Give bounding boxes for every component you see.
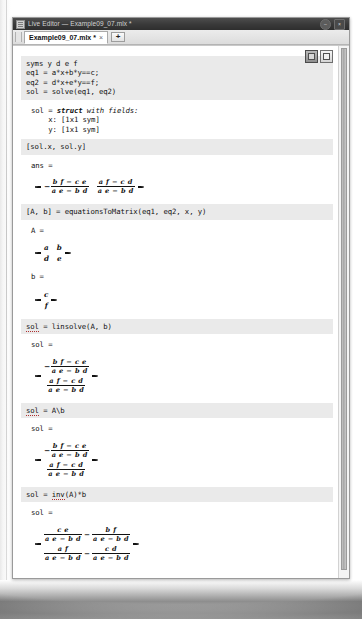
matrix-sol-linsolve: − b f − c e a e − b d a f − c d <box>21 355 333 398</box>
output-A-label: A = <box>21 226 333 236</box>
fraction: a f − c d a e − b d <box>47 377 85 394</box>
matrix-cell: a f a e − b d − c d a e − b d <box>43 544 131 563</box>
matrix-cell: c e a e − b d − b f a e − b d <box>43 525 131 544</box>
output-sol-label-1: sol = <box>21 340 333 350</box>
fraction: c e a e − b d <box>44 526 82 543</box>
tab-example09-07[interactable]: Example09_07.mlx * × <box>24 31 108 44</box>
code-cell-6[interactable]: sol = inv(A)*b <box>21 487 333 502</box>
matrix-row: a f a e − b d − c d a e − b d <box>43 544 131 563</box>
live-script-content: syms y d e f eq1 = a*x+b*y==c; eq2 = d*x… <box>13 46 339 578</box>
output-sol-label-3: sol = <box>21 508 333 518</box>
matrix-cell: c <box>43 289 49 300</box>
warning-token: inv <box>52 490 65 500</box>
live-editor-window: Live Editor — Example09_07.mlx * – × Exa… <box>12 17 350 579</box>
code-cell-2[interactable]: [sol.x, sol.y] <box>21 139 333 154</box>
matrix-A: a b d e <box>21 240 333 267</box>
output-inline-icon[interactable] <box>305 50 318 63</box>
matrix-row: a f − c d a e − b d <box>43 376 90 395</box>
matrix-sol-inv: c e a e − b d − b f a e − b d <box>21 523 333 566</box>
struct-field-y: y: [1x1 sym] <box>31 125 100 134</box>
numerator: b f <box>105 526 118 534</box>
fraction: a f − c d a e − b d <box>97 178 135 195</box>
minus-sign: − <box>44 446 51 455</box>
window-titlebar[interactable]: Live Editor — Example09_07.mlx * – × <box>13 18 349 30</box>
fraction: b f − c e a e − b d <box>51 178 89 195</box>
page-bottom-shadow <box>0 580 362 619</box>
minimize-icon: – <box>324 22 327 27</box>
output-display-toggle-group <box>305 50 333 63</box>
code-cell-1[interactable]: syms y d e f eq1 = a*x+b*y==c; eq2 = d*x… <box>21 56 333 100</box>
denominator: a e − b d <box>92 554 130 562</box>
matrix-paren-right <box>65 252 71 254</box>
matrix-cell: a f − c d a e − b d <box>46 460 86 479</box>
output-sol-label-2: sol = <box>21 424 333 434</box>
matrix-cell: b <box>56 242 63 253</box>
numerator: a f − c d <box>48 461 84 469</box>
new-tab-button[interactable]: + <box>111 32 125 42</box>
numerator: b f − c e <box>52 442 88 450</box>
denominator: a e − b d <box>92 535 130 543</box>
minimize-button[interactable]: – <box>320 19 331 30</box>
matrix-row: − b f − c e a e − b d <box>43 441 90 460</box>
matrix-row: − b f − c e a e − b d <box>43 357 90 376</box>
window-title: Live Editor — Example09_07.mlx * <box>28 18 320 30</box>
matrix-paren-right <box>92 459 98 461</box>
matrix-cell: a f − c d a e − b d <box>46 376 86 395</box>
warning-token: sol <box>26 406 39 416</box>
matrix-b: c f <box>21 287 333 314</box>
close-button[interactable]: × <box>334 19 345 30</box>
code-cell-5[interactable]: sol = A\b <box>21 403 333 418</box>
operator-minus: − <box>82 530 92 539</box>
denominator: a e − b d <box>47 386 85 394</box>
matrix-ans: − b f − c e a e − b d a f − c d <box>21 175 333 199</box>
denominator: a e − b d <box>97 187 135 195</box>
matrix-row: − b f − c e a e − b d a f − c d <box>43 177 136 196</box>
matrix-sol-backslash: − b f − c e a e − b d a f − c d <box>21 439 333 482</box>
denominator: a e − b d <box>44 554 82 562</box>
tab-bar: Example09_07.mlx * × + <box>13 30 349 45</box>
code-text: (A)*b <box>65 490 86 499</box>
matrix-cell: a <box>43 242 50 253</box>
matrix-row: a b <box>43 242 63 253</box>
fraction: b f a e − b d <box>92 526 130 543</box>
output-struct: sol = struct with fields: x: [1x1 sym] y… <box>21 106 333 135</box>
denominator: a e − b d <box>51 367 89 375</box>
vertical-scrollbar[interactable] <box>338 46 349 578</box>
matlab-icon <box>16 20 25 29</box>
output-b-label: b = <box>21 272 333 282</box>
tab-close-icon[interactable]: × <box>99 34 103 41</box>
fraction: b f − c e a e − b d <box>51 442 89 459</box>
code-cell-4[interactable]: sol = linsolve(A, b) <box>21 319 333 334</box>
matrix-paren-right <box>51 299 57 301</box>
matrix-cell: e <box>56 253 63 264</box>
fraction: b f − c e a e − b d <box>51 358 89 375</box>
close-icon: × <box>338 22 341 27</box>
struct-field-x: x: [1x1 sym] <box>31 115 100 124</box>
tab-label: Example09_07.mlx * <box>29 34 96 41</box>
code-text: = linsolve(A, b) <box>39 322 112 331</box>
struct-keyword: struct <box>57 106 83 115</box>
numerator: b f − c e <box>52 358 88 366</box>
matrix-cell: f <box>44 300 49 311</box>
matrix-cell: a f − c d a e − b d <box>96 177 136 196</box>
matrix-paren-right <box>92 375 98 377</box>
denominator: a e − b d <box>47 470 85 478</box>
output-ans-label: ans = <box>21 161 333 171</box>
numerator: c d <box>104 545 118 553</box>
matrix-row: c <box>43 289 49 300</box>
matrix-cell: − b f − c e a e − b d <box>43 177 90 196</box>
matrix-body: − b f − c e a e − b d a f − c d <box>41 440 92 480</box>
tab-drag-handle[interactable] <box>15 32 22 42</box>
numerator: c e <box>56 526 70 534</box>
fraction: c d a e − b d <box>92 545 130 562</box>
matrix-paren-right <box>138 186 144 188</box>
vertical-scrollbar-thumb[interactable] <box>341 48 347 570</box>
matrix-cell: d <box>43 253 50 264</box>
matrix-body: c e a e − b d − b f a e − b d <box>41 524 133 564</box>
output-right-icon[interactable] <box>320 50 333 63</box>
code-text: sol = <box>26 490 52 499</box>
code-text: = A\b <box>39 406 65 415</box>
numerator: a f <box>57 545 70 553</box>
code-cell-3[interactable]: [A, b] = equationsToMatrix(eq1, eq2, x, … <box>21 204 333 219</box>
matrix-cell: − b f − c e a e − b d <box>43 441 90 460</box>
